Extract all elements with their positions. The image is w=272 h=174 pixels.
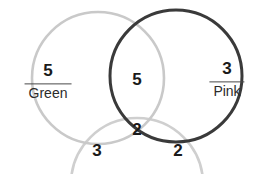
set-label-pink-name: Pink: [209, 84, 244, 99]
venn-diagram: 5 Green 3 Pink 5 2 3 2: [0, 0, 272, 174]
region-value-all-three: 2: [132, 121, 141, 138]
region-value-pink-third-only: 2: [173, 142, 182, 159]
region-value-green-pink-only: 5: [132, 71, 141, 88]
set-label-green-count: 5: [25, 62, 72, 80]
set-label-green-rule: [25, 83, 72, 84]
region-value-green-third-only: 3: [92, 142, 101, 159]
set-label-pink-count: 3: [209, 60, 244, 78]
set-label-green-name: Green: [25, 86, 72, 101]
set-label-green: 5 Green: [25, 62, 72, 101]
set-label-pink-rule: [209, 81, 244, 82]
set-label-pink: 3 Pink: [209, 60, 244, 99]
